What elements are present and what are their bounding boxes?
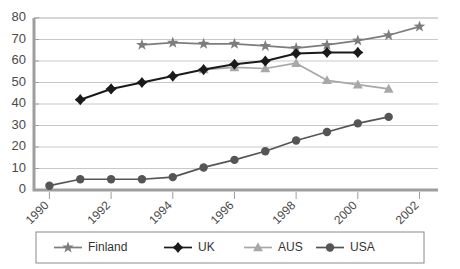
chart-canvas: 01020304050607080 1990199219941996199820…: [0, 0, 460, 269]
x-axis-tick-label: 1994: [146, 198, 175, 227]
legend-label: UK: [198, 240, 215, 254]
legend-label: Finland: [88, 240, 127, 254]
data-point-marker: [383, 29, 395, 40]
legend-item-aus: AUS: [244, 240, 303, 254]
y-axis-tick-label: 20: [12, 138, 26, 153]
y-axis-tick-label: 80: [12, 9, 26, 24]
series-aus: [199, 58, 394, 93]
x-axis-tick-label: 2002: [393, 198, 422, 227]
data-point-marker: [352, 47, 363, 58]
data-point-marker: [384, 113, 392, 121]
data-point-marker: [167, 37, 179, 48]
line-chart: 01020304050607080 1990199219941996199820…: [0, 0, 460, 269]
data-point-marker: [261, 147, 269, 155]
legend-item-usa: USA: [316, 240, 375, 254]
gridlines: [34, 18, 438, 169]
y-axis-tick-label: 30: [12, 117, 26, 132]
data-point-marker: [354, 119, 362, 127]
y-axis-tick-label: 70: [12, 31, 26, 46]
data-point-marker: [260, 40, 272, 51]
legend-item-finland: Finland: [54, 240, 127, 254]
y-axis-tick-label: 10: [12, 160, 26, 175]
data-point-marker: [230, 156, 238, 164]
x-axis-tick-label: 1998: [269, 198, 298, 227]
data-point-marker: [322, 75, 332, 84]
x-axis-tick-label: 1996: [208, 198, 237, 227]
legend-label: AUS: [278, 240, 303, 254]
y-axis-tick-label: 60: [12, 52, 26, 67]
data-point-marker: [172, 242, 183, 253]
data-point-marker: [136, 39, 148, 50]
data-series: [45, 21, 425, 190]
series-usa: [45, 113, 393, 190]
series-line: [80, 52, 358, 99]
series-line: [49, 117, 388, 186]
data-point-marker: [167, 70, 178, 81]
data-point-marker: [62, 241, 74, 252]
y-axis-tick-label: 0: [19, 181, 26, 196]
x-axis-tick-label: 2000: [331, 198, 360, 227]
data-point-marker: [169, 173, 177, 181]
data-point-marker: [45, 182, 53, 190]
data-point-marker: [260, 55, 271, 66]
data-point-marker: [326, 243, 334, 251]
y-axis-labels: 01020304050607080: [12, 9, 26, 196]
data-point-marker: [352, 34, 364, 45]
series-line: [142, 27, 420, 48]
data-point-marker: [107, 175, 115, 183]
y-axis-tick-label: 50: [12, 74, 26, 89]
series-finland: [136, 21, 425, 54]
y-axis-tick-label: 40: [12, 95, 26, 110]
data-point-marker: [136, 77, 147, 88]
x-axis-tick-label: 1990: [23, 198, 52, 227]
data-point-marker: [321, 47, 332, 58]
x-axis-labels: 1990199219941996199820002002: [23, 198, 422, 227]
data-point-marker: [198, 64, 209, 75]
data-point-marker: [291, 58, 301, 67]
legend-item-uk: UK: [164, 240, 215, 254]
data-point-marker: [414, 21, 426, 32]
chart-legend: FinlandUKAUSUSA: [36, 232, 424, 263]
legend-label: USA: [350, 240, 375, 254]
data-point-marker: [199, 163, 207, 171]
x-axis-tick-label: 1992: [84, 198, 113, 227]
data-point-marker: [323, 128, 331, 136]
axis-tickmarks: [34, 18, 419, 199]
data-point-marker: [138, 175, 146, 183]
data-point-marker: [105, 83, 116, 94]
data-point-marker: [76, 175, 84, 183]
data-point-marker: [291, 48, 302, 59]
data-point-marker: [292, 136, 300, 144]
